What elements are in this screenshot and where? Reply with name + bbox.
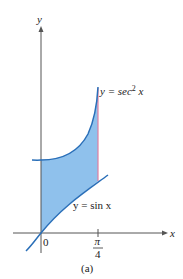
sin-label: y = sin x bbox=[73, 199, 112, 211]
tick-label-numerator: π bbox=[95, 235, 101, 247]
x-axis-label: x bbox=[169, 227, 175, 239]
tick-label-denominator: 4 bbox=[95, 248, 101, 260]
figure-caption: (a) bbox=[81, 262, 94, 275]
labels-layer: y x 0 π 4 y = sec2 x y = sin x (a) bbox=[0, 0, 183, 279]
sec-squared-label-var: x bbox=[136, 85, 144, 97]
sec-squared-label-lhs: y = sec bbox=[99, 85, 132, 97]
origin-label: 0 bbox=[43, 236, 49, 248]
sec-squared-label: y = sec2 x bbox=[99, 84, 144, 97]
y-axis-label: y bbox=[36, 13, 42, 25]
